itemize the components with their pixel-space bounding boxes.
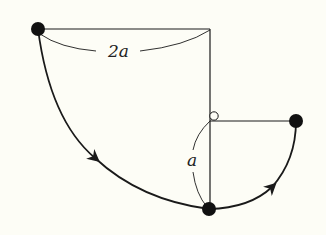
dimension-arc-a-top — [193, 121, 210, 150]
dimension-arc-2a-left — [40, 34, 96, 51]
small-swing-arc — [209, 187, 272, 209]
label-2a: 2a — [107, 41, 129, 61]
bottom-bob — [202, 202, 216, 216]
end-bob — [289, 114, 303, 128]
dimension-arc-a-bottom — [193, 172, 207, 207]
dimension-arc-2a-right — [140, 30, 210, 51]
small-swing-arc-continued — [272, 121, 296, 187]
pendulum-diagram: 2a a — [0, 0, 326, 235]
label-a: a — [187, 150, 197, 170]
large-swing-arc — [38, 29, 95, 158]
start-bob — [31, 22, 45, 36]
peg-icon — [210, 112, 218, 120]
